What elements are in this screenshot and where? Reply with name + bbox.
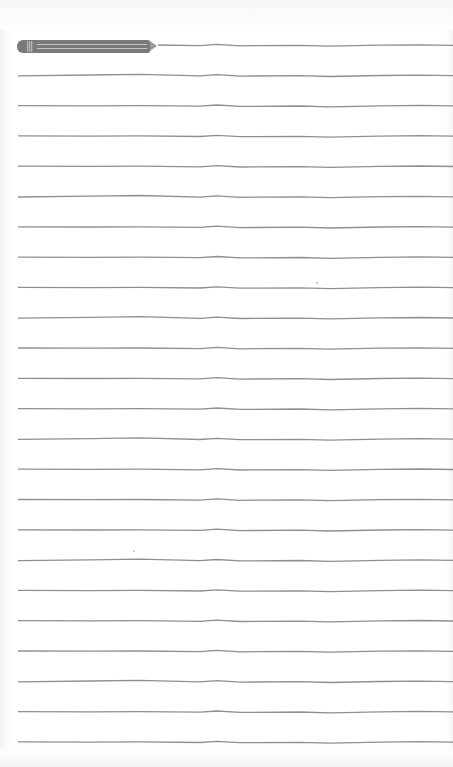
ruled-line (18, 166, 453, 168)
ruled-line (18, 559, 453, 561)
paper-speck (316, 282, 318, 284)
ruled-line (18, 469, 453, 471)
ruled-line (18, 529, 453, 531)
ruled-line (18, 378, 453, 380)
ruled-line (158, 44, 453, 46)
ruled-line (18, 287, 453, 289)
paper-speck (133, 550, 135, 552)
ruled-line (18, 347, 453, 349)
ruled-line (18, 620, 453, 622)
pencil-icon (17, 40, 150, 53)
pencil-stripe (37, 44, 147, 45)
ruled-line (18, 438, 453, 440)
ruled-line (18, 741, 453, 743)
ruled-lines (0, 0, 453, 767)
pencil-ferrule (27, 41, 33, 52)
pencil-tip-icon (150, 41, 157, 51)
ruled-line (18, 74, 453, 76)
pencil-stripe (37, 48, 147, 49)
ruled-line (18, 226, 453, 228)
ruled-line (18, 680, 453, 682)
ruled-line (18, 196, 453, 198)
ruled-line (18, 408, 453, 410)
ruled-line (18, 317, 453, 319)
ruled-line (18, 499, 453, 501)
ruled-line (18, 257, 453, 259)
ruled-line (18, 105, 453, 107)
notepad-page (0, 0, 453, 767)
ruled-line (18, 650, 453, 652)
ruled-line (18, 590, 453, 592)
ruled-line (18, 135, 453, 137)
ruled-line (18, 711, 453, 713)
